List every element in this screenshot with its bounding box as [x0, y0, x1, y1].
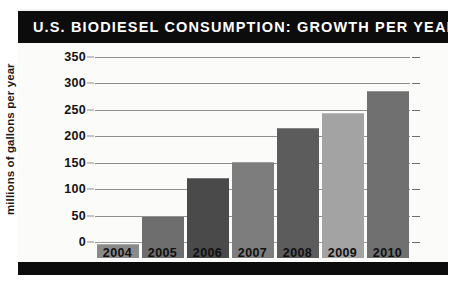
ytick-stub-250	[87, 109, 94, 110]
ytick-stub-300	[87, 83, 94, 84]
gridline-350	[95, 57, 410, 58]
bottom-band	[18, 262, 448, 275]
bar-slot	[320, 73, 365, 258]
ytick-stub-150	[87, 162, 94, 163]
chart-region: millions of gallons per year 0 50 100 15…	[18, 43, 448, 262]
ytick-label-250: 250	[64, 103, 86, 117]
bar-slot	[95, 73, 140, 258]
bar-slot	[275, 73, 320, 258]
bar-slot	[140, 73, 185, 258]
ytick-stub-200	[87, 136, 94, 137]
ytick-stub-0	[87, 242, 94, 243]
ytick-stub-100	[87, 189, 94, 190]
ytick-label-350: 350	[64, 50, 86, 64]
page-title: U.S. BIODIESEL CONSUMPTION: GROWTH PER Y…	[18, 19, 458, 35]
y-axis-label: millions of gallons per year	[4, 65, 24, 215]
bar-slot	[185, 73, 230, 258]
right-tick-0	[412, 242, 420, 243]
ytick-label-50: 50	[71, 209, 86, 223]
bar-series	[95, 73, 410, 258]
right-tick-50	[412, 216, 420, 217]
right-tick-300	[412, 83, 420, 84]
ytick-label-150: 150	[64, 156, 86, 170]
right-tick-200	[412, 136, 420, 137]
right-tick-250	[412, 110, 420, 111]
plot-area: 0 50 100 150 200 250 300	[95, 57, 423, 258]
bar-2010	[367, 91, 409, 258]
infographic-root: U.S. BIODIESEL CONSUMPTION: GROWTH PER Y…	[0, 0, 463, 287]
ytick-label-100: 100	[64, 182, 86, 196]
bar-slot	[365, 73, 410, 258]
ytick-label-0: 0	[79, 235, 86, 249]
ytick-label-200: 200	[64, 129, 86, 143]
right-tick-150	[412, 163, 420, 164]
bar-2009	[322, 113, 364, 258]
bar-2008	[277, 128, 319, 258]
ytick-label-300: 300	[64, 76, 86, 90]
bar-slot	[230, 73, 275, 258]
title-bar: U.S. BIODIESEL CONSUMPTION: GROWTH PER Y…	[18, 11, 448, 43]
right-tick-350	[412, 57, 420, 58]
ytick-stub-50	[87, 215, 94, 216]
ytick-stub-350	[87, 57, 94, 58]
right-tick-100	[412, 189, 420, 190]
